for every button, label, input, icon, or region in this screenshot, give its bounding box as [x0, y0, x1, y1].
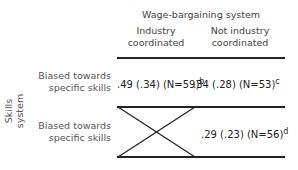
table-top-rule — [117, 57, 285, 59]
column-header-line2: coordinated — [117, 37, 195, 49]
cell-footnote: c — [275, 77, 279, 86]
column-header-line1: Industry — [117, 25, 195, 37]
cell-value: .49 (.34) (N=59) — [117, 79, 199, 90]
table-cell-r1-c1: .49 (.34) (N=59)b — [117, 77, 204, 90]
cell-value: .34 (.28) (N=53) — [193, 79, 275, 90]
row-group-axis-label: Skills system — [3, 81, 25, 141]
row-label-line2: specific skills — [30, 132, 111, 144]
group-title: Wage-bargaining system — [117, 9, 285, 20]
row-label-1: Biased towards specific skills — [30, 70, 111, 94]
row-label-line1: Biased towards — [30, 70, 111, 82]
table-cell-r2-c2: .29 (.23) (N=56)d — [201, 127, 288, 140]
row-label-2: Biased towards specific skills — [30, 120, 111, 144]
row-label-line1: Biased towards — [30, 120, 111, 132]
column-header-line1: Not industry — [196, 25, 284, 37]
table-cell-r1-c2: .34 (.28) (N=53)c — [193, 77, 280, 90]
column-header-not-industry-coordinated: Not industry coordinated — [196, 25, 284, 49]
column-header-line2: coordinated — [196, 37, 284, 49]
crossed-out-empty-cell-icon — [117, 106, 197, 158]
cell-value: .29 (.23) (N=56) — [201, 129, 283, 140]
row-label-line2: specific skills — [30, 82, 111, 94]
column-header-industry-coordinated: Industry coordinated — [117, 25, 195, 49]
cell-footnote: d — [283, 127, 288, 136]
